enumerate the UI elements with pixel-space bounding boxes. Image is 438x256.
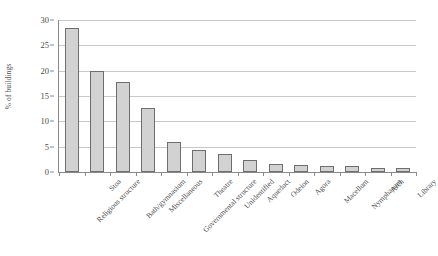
x-axis-tick-mark [416,172,417,176]
x-axis-tick-mark [59,172,60,176]
bar [396,168,410,172]
bar [371,168,385,172]
bar [192,150,206,172]
x-axis-tick-mark [263,172,264,176]
x-axis-tick-mark [238,172,239,176]
y-axis-tick-label: 20 [41,66,50,76]
y-axis-tick-label: 10 [41,116,50,126]
x-axis-tick-mark [212,172,213,176]
y-axis-tick-mark [50,70,54,71]
bar [218,154,232,172]
bar [294,165,308,172]
plot-area [58,20,416,173]
y-axis-tick-mark [50,172,54,173]
x-axis-tick-mark [391,172,392,176]
x-axis-tick-mark [85,172,86,176]
bar [116,82,130,172]
x-axis-tick-mark [314,172,315,176]
bar [90,71,104,172]
y-axis-title-text: % of buildings [5,63,14,109]
x-axis-tick-mark [136,172,137,176]
bar [320,166,334,172]
bars-layer [59,20,416,172]
x-axis-tick-label: Agora [313,177,333,197]
x-axis-tick-label: Library [416,177,438,199]
bar [65,28,79,172]
x-axis-tick-mark [187,172,188,176]
x-axis-tick-label: Macellum [342,177,370,205]
x-axis-tick-mark [365,172,366,176]
y-axis-tick-mark [50,146,54,147]
x-axis-tick-mark [340,172,341,176]
y-axis-tick-labels: 051015202530 [18,20,54,172]
bar [167,142,181,172]
y-axis-tick-label: 15 [41,91,50,101]
y-axis-tick-mark [50,121,54,122]
x-axis-tick-label: Odeion [288,177,310,199]
y-axis-tick-mark [50,96,54,97]
bar [269,164,283,172]
x-axis-tick-labels: Religious structureStoaBath/gymnasiumMis… [58,177,426,256]
x-axis-tick-mark [110,172,111,176]
y-axis-tick-label: 25 [41,40,50,50]
bar [141,108,155,172]
y-axis-tick-label: 30 [41,15,50,25]
y-axis-tick-mark [50,45,54,46]
x-axis-tick-mark [289,172,290,176]
bar [345,166,359,172]
y-axis-tick-label: 5 [45,142,49,152]
y-axis-tick-mark [50,20,54,21]
y-axis-title: % of buildings [0,0,18,172]
x-axis-tick-mark [161,172,162,176]
y-axis-tick-label: 0 [45,167,49,177]
bar [243,160,257,172]
